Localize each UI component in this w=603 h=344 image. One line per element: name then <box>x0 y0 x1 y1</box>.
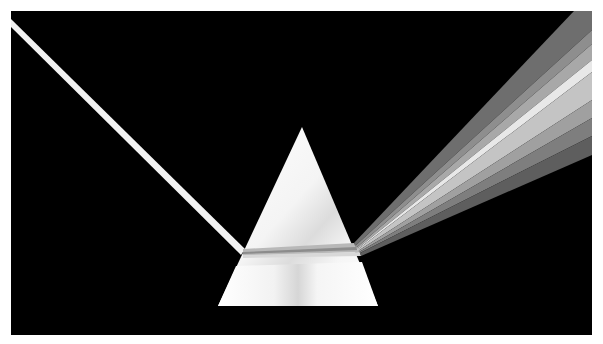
prism-image: Prism dispersing a beam of white light i… <box>0 0 603 344</box>
prism-lower-section <box>218 262 378 306</box>
prism-illustration <box>0 0 603 344</box>
